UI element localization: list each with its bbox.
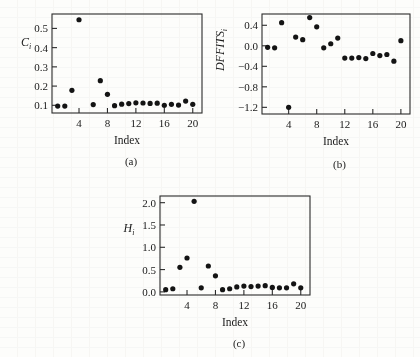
data-point xyxy=(105,92,110,97)
x-tick-label: 16 xyxy=(267,299,279,311)
y-tick-label: 0.5 xyxy=(34,22,48,34)
data-point xyxy=(286,105,291,110)
data-point xyxy=(391,59,396,64)
data-point xyxy=(277,285,282,290)
data-point xyxy=(162,103,167,108)
data-point xyxy=(213,273,218,278)
scatter-plot-a: 481216200.10.20.30.40.5IndexCi xyxy=(0,0,210,150)
y-tick-label: 0.3 xyxy=(34,61,48,73)
data-point xyxy=(91,102,96,107)
chart-panel-a: 481216200.10.20.30.40.5IndexCi xyxy=(0,0,210,150)
panel-a-caption: (a) xyxy=(52,155,210,167)
data-point xyxy=(199,285,204,290)
y-tick-label: 0.5 xyxy=(142,264,156,276)
y-tick-label: 0.4 xyxy=(34,42,48,54)
data-point xyxy=(272,45,277,50)
data-point xyxy=(270,285,275,290)
scatter-plot-b: 481216200.40.0−0.4−0.8−1.2IndexDFFITSi xyxy=(210,0,420,152)
data-point xyxy=(298,285,303,290)
y-tick-label: 1.0 xyxy=(142,241,156,253)
data-point xyxy=(293,34,298,39)
x-axis-label: Index xyxy=(323,135,349,147)
data-point xyxy=(76,17,81,22)
y-tick-label: 0.0 xyxy=(142,286,156,298)
data-point xyxy=(163,287,168,292)
data-point xyxy=(256,283,261,288)
data-point xyxy=(314,24,319,29)
x-tick-label: 12 xyxy=(339,118,350,130)
data-point xyxy=(190,102,195,107)
data-point xyxy=(356,55,361,60)
x-tick-label: 12 xyxy=(238,299,249,311)
data-point xyxy=(377,53,382,58)
chart-panel-c: 481216200.00.51.01.52.0IndexHi xyxy=(105,182,320,334)
data-point xyxy=(227,286,232,291)
x-tick-label: 8 xyxy=(314,118,320,130)
y-axis-label: DFFITSi xyxy=(213,29,229,72)
data-point xyxy=(279,20,284,25)
y-tick-label: 0.4 xyxy=(244,19,258,31)
x-tick-label: 4 xyxy=(76,117,82,129)
y-tick-label: −0.8 xyxy=(238,81,258,93)
data-point xyxy=(291,281,296,286)
data-point xyxy=(170,286,175,291)
data-point xyxy=(155,101,160,106)
data-point xyxy=(342,56,347,61)
data-point xyxy=(69,88,74,93)
data-point xyxy=(119,102,124,107)
data-point xyxy=(133,100,138,105)
data-point xyxy=(241,283,246,288)
data-point xyxy=(206,263,211,268)
data-point xyxy=(148,101,153,106)
y-tick-label: 0.0 xyxy=(244,40,258,52)
svg-text:DFFITSi: DFFITSi xyxy=(213,29,229,72)
data-point xyxy=(184,255,189,260)
data-point xyxy=(265,45,270,50)
scatter-plot-c: 481216200.00.51.01.52.0IndexHi xyxy=(105,182,320,334)
data-point xyxy=(62,103,67,108)
data-point xyxy=(140,100,145,105)
data-point xyxy=(169,102,174,107)
y-tick-label: 0.2 xyxy=(34,80,48,92)
data-point xyxy=(98,78,103,83)
data-point xyxy=(55,103,60,108)
svg-text:Hi: Hi xyxy=(123,221,135,237)
x-tick-label: 16 xyxy=(367,118,379,130)
data-point xyxy=(248,284,253,289)
data-point xyxy=(126,101,131,106)
x-axis-label: Index xyxy=(114,134,140,146)
x-tick-label: 12 xyxy=(130,117,141,129)
x-axis-label: Index xyxy=(222,316,248,328)
data-point xyxy=(284,285,289,290)
panel-c-caption: (c) xyxy=(160,337,318,349)
plot-frame xyxy=(160,196,310,295)
data-point xyxy=(183,98,188,103)
x-tick-label: 20 xyxy=(395,118,407,130)
y-axis-label: Hi xyxy=(123,221,135,237)
data-point xyxy=(176,103,181,108)
data-point xyxy=(335,36,340,41)
data-point xyxy=(398,38,403,43)
data-point xyxy=(328,41,333,46)
data-point xyxy=(300,37,305,42)
y-tick-label: −1.2 xyxy=(238,101,258,113)
data-point xyxy=(349,56,354,61)
data-point xyxy=(263,283,268,288)
y-tick-label: 0.1 xyxy=(34,99,48,111)
svg-text:Ci: Ci xyxy=(21,35,31,51)
data-point xyxy=(307,15,312,20)
plot-frame xyxy=(52,14,202,113)
x-tick-label: 20 xyxy=(295,299,307,311)
data-point xyxy=(384,52,389,57)
x-tick-label: 4 xyxy=(286,118,292,130)
data-point xyxy=(321,45,326,50)
data-point xyxy=(192,199,197,204)
data-point xyxy=(370,51,375,56)
y-tick-label: 2.0 xyxy=(142,197,156,209)
data-point xyxy=(234,284,239,289)
x-tick-label: 8 xyxy=(105,117,111,129)
data-point xyxy=(177,265,182,270)
y-tick-label: 1.5 xyxy=(142,219,156,231)
x-tick-label: 4 xyxy=(184,299,190,311)
x-tick-label: 16 xyxy=(159,117,171,129)
